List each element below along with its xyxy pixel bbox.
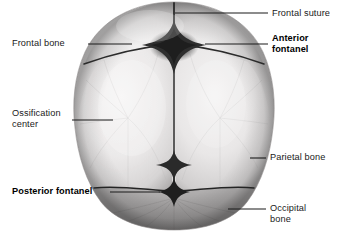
label-posterior-fontanel-text: Posterior fontanel [12, 186, 92, 197]
highlight-frontal [116, 10, 184, 42]
label-ossification-center: Ossification center [12, 108, 61, 130]
label-frontal-bone-text: Frontal bone [12, 38, 65, 49]
label-parietal-bone: Parietal bone [270, 152, 325, 163]
label-frontal-suture: Frontal suture [272, 8, 330, 19]
highlight-left [98, 60, 166, 156]
label-anterior-fontanel-line2: fontanel [272, 44, 309, 55]
label-parietal-bone-text: Parietal bone [270, 152, 325, 163]
label-anterior-fontanel-line1: Anterior [272, 33, 309, 44]
label-posterior-fontanel: Posterior fontanel [12, 186, 92, 197]
label-frontal-bone: Frontal bone [12, 38, 65, 49]
anatomy-figure: Frontal suture Anterior fontanel Frontal… [0, 0, 348, 247]
label-occipital-bone: Occipital bone [270, 203, 306, 225]
label-ossification-center-line1: Ossification [12, 108, 61, 119]
label-ossification-center-line2: center [12, 119, 61, 130]
label-frontal-suture-text: Frontal suture [272, 8, 330, 19]
label-anterior-fontanel: Anterior fontanel [272, 33, 309, 55]
label-occipital-bone-line2: bone [270, 214, 306, 225]
label-occipital-bone-line1: Occipital [270, 203, 306, 214]
highlight-right [186, 60, 246, 148]
